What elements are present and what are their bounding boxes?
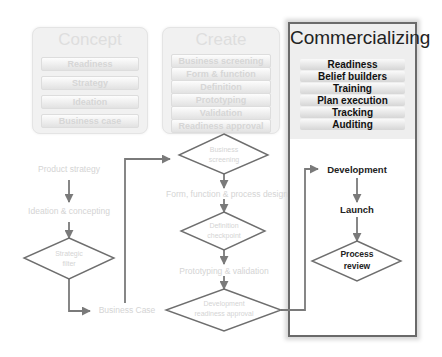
label-definition-1: Definition bbox=[194, 222, 254, 229]
arrow-filter-businesscase bbox=[69, 279, 90, 311]
label-process-review-2: review bbox=[327, 261, 387, 271]
label-business-screening-2: screening bbox=[194, 156, 254, 163]
label-form-function: Form, function & process design bbox=[152, 189, 302, 199]
label-definition-2: checkpoint bbox=[194, 232, 254, 239]
definition-checkpoint-diamond bbox=[181, 212, 265, 250]
label-business-screening-1: Business bbox=[194, 146, 254, 153]
label-development: Development bbox=[317, 164, 397, 175]
label-dev-readiness-1: Development bbox=[184, 300, 264, 307]
label-dev-readiness-2: readiness approval bbox=[184, 310, 264, 317]
label-process-review-1: Process bbox=[327, 249, 387, 259]
label-business-case: Business Case bbox=[92, 305, 162, 315]
label-strategic-filter-2: filter bbox=[39, 260, 99, 267]
business-screening-diamond bbox=[179, 134, 268, 174]
label-strategic-filter-1: Strategic bbox=[39, 250, 99, 257]
label-ideation: Ideation & concepting bbox=[9, 206, 129, 216]
label-launch: Launch bbox=[327, 204, 387, 215]
label-product-strategy: Product strategy bbox=[19, 164, 119, 174]
connector-to-screening bbox=[125, 159, 170, 303]
strategic-filter-diamond bbox=[24, 238, 114, 279]
label-prototyping: Prototyping & validation bbox=[164, 266, 284, 276]
